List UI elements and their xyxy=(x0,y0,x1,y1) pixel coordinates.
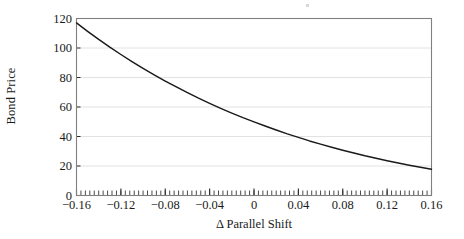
plot-area xyxy=(0,0,464,239)
bond-price-chart-figure: Bond Price Δ Parallel Shift 020406080100… xyxy=(0,0,464,239)
bond-price-curve xyxy=(77,23,432,169)
gridlines xyxy=(77,19,432,167)
